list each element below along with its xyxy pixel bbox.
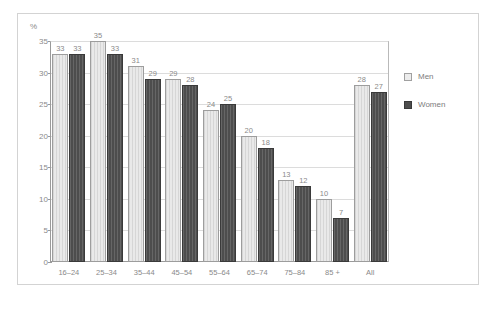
- chart-legend: Men Women: [404, 72, 474, 128]
- y-tick-label: 35: [20, 37, 48, 46]
- bars-layer: 33333533312929282425201813121072827: [50, 41, 389, 262]
- bar-women[interactable]: [258, 148, 274, 262]
- y-tick-label: 20: [20, 131, 48, 140]
- bar-group: 3129: [128, 41, 161, 262]
- bar-men[interactable]: [90, 41, 106, 262]
- legend-item-women[interactable]: Women: [404, 100, 474, 109]
- y-tick-label: 10: [20, 194, 48, 203]
- chart-figure: % 05101520253035 33333533312929282425201…: [0, 0, 496, 311]
- bar-group: 3333: [52, 41, 85, 262]
- bar-men[interactable]: [316, 199, 332, 262]
- bar-group: 2018: [241, 41, 274, 262]
- bar-group: 1312: [278, 41, 311, 262]
- y-axis-unit-label: %: [30, 22, 37, 31]
- bar-group: 2928: [165, 41, 198, 262]
- bar-value-label-women: 7: [332, 208, 350, 217]
- bar-value-label-women: 25: [219, 94, 237, 103]
- bar-men[interactable]: [241, 136, 257, 262]
- bar-men[interactable]: [203, 110, 219, 262]
- x-tick-label: 25–34: [88, 268, 126, 277]
- y-tick-label: 25: [20, 100, 48, 109]
- y-tick-label: 30: [20, 68, 48, 77]
- bar-women[interactable]: [371, 92, 387, 262]
- x-tick-label: 45–54: [163, 268, 201, 277]
- bar-men[interactable]: [128, 66, 144, 262]
- x-tick-label: 16–24: [50, 268, 88, 277]
- bar-women[interactable]: [69, 54, 85, 262]
- bar-value-label-men: 28: [353, 75, 371, 84]
- bar-group: 2827: [354, 41, 387, 262]
- bar-value-label-men: 20: [240, 126, 258, 135]
- legend-label-men: Men: [418, 72, 434, 81]
- bar-value-label-women: 12: [294, 176, 312, 185]
- bar-women[interactable]: [107, 54, 123, 262]
- bar-group: 3533: [90, 41, 123, 262]
- y-axis: 05101520253035: [14, 41, 48, 262]
- bar-value-label-men: 31: [127, 56, 145, 65]
- bar-men[interactable]: [52, 54, 68, 262]
- bar-value-label-women: 28: [181, 75, 199, 84]
- bar-group: 2425: [203, 41, 236, 262]
- x-tick-label: 55–64: [201, 268, 239, 277]
- legend-swatch-women-icon: [404, 101, 412, 109]
- x-tick-label: 75–84: [276, 268, 314, 277]
- y-tick-label: 0: [20, 258, 48, 267]
- bar-value-label-men: 29: [164, 69, 182, 78]
- bar-value-label-women: 33: [68, 44, 86, 53]
- bar-value-label-women: 33: [106, 44, 124, 53]
- x-axis-labels: 16–2425–3435–4445–5455–6465–7475–8485 +A…: [50, 268, 389, 282]
- bar-group: 107: [316, 41, 349, 262]
- bar-women[interactable]: [145, 79, 161, 262]
- bar-value-label-women: 29: [144, 69, 162, 78]
- legend-swatch-men-icon: [404, 73, 412, 81]
- bar-women[interactable]: [333, 218, 349, 262]
- y-tick-label: 5: [20, 226, 48, 235]
- y-tick-mark: [48, 262, 52, 263]
- bar-men[interactable]: [278, 180, 294, 262]
- bar-value-label-men: 10: [315, 189, 333, 198]
- bar-women[interactable]: [220, 104, 236, 262]
- legend-item-men[interactable]: Men: [404, 72, 474, 81]
- bar-value-label-men: 35: [89, 31, 107, 40]
- bar-value-label-men: 24: [202, 100, 220, 109]
- bar-women[interactable]: [295, 186, 311, 262]
- bar-value-label-men: 33: [51, 44, 69, 53]
- x-tick-label: All: [351, 268, 389, 277]
- legend-label-women: Women: [418, 100, 445, 109]
- bar-men[interactable]: [165, 79, 181, 262]
- bar-value-label-men: 13: [277, 170, 295, 179]
- x-tick-label: 65–74: [238, 268, 276, 277]
- bar-women[interactable]: [182, 85, 198, 262]
- bar-men[interactable]: [354, 85, 370, 262]
- bar-value-label-women: 18: [257, 138, 275, 147]
- x-tick-label: 35–44: [125, 268, 163, 277]
- bar-value-label-women: 27: [370, 82, 388, 91]
- x-tick-label: 85 +: [314, 268, 352, 277]
- y-tick-label: 15: [20, 163, 48, 172]
